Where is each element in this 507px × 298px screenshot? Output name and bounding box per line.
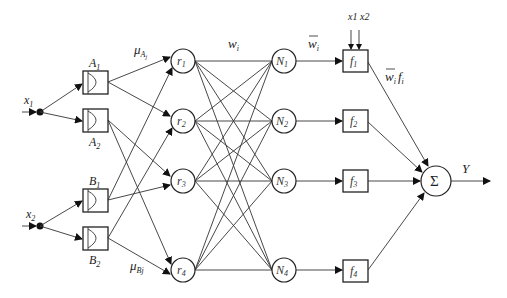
f1-inputs: x1 x2	[347, 11, 369, 49]
input-x2: x2	[22, 201, 82, 239]
rule-node-r4: r4	[171, 258, 195, 282]
input-x1: x1	[22, 84, 82, 121]
norm-f-edges	[296, 61, 342, 270]
f-box-f3: f3	[343, 170, 368, 192]
mf-rule-edges	[108, 57, 172, 274]
rule-norm-edges	[195, 61, 272, 270]
svg-text:B2: B2	[89, 253, 100, 269]
svg-text:x2: x2	[25, 207, 35, 223]
wbar-label: wi	[308, 36, 319, 53]
norm-node-N3: N3	[272, 169, 296, 193]
sum-node: Σ	[421, 166, 451, 196]
wbar-f-label: wifi	[385, 69, 404, 86]
anfis-diagram: x1 x2 A1 A2 B1 B2	[0, 0, 507, 298]
svg-text:Σ: Σ	[430, 173, 439, 189]
rule-node-r2: r2	[171, 109, 195, 133]
svg-text:x1 x2: x1 x2	[347, 11, 369, 22]
mf-box-A1: A1	[83, 56, 108, 94]
mf-box-B2: B2	[83, 227, 108, 269]
rule-node-r3: r3	[171, 169, 195, 193]
w-label: wi	[228, 36, 239, 53]
mu-B-label: μBj	[129, 258, 144, 275]
mu-A-label: μAj	[133, 42, 147, 60]
rule-node-r1: r1	[171, 49, 195, 73]
svg-text:wi: wi	[308, 36, 319, 53]
svg-text:A2: A2	[88, 135, 100, 151]
norm-node-N1: N1	[272, 49, 296, 73]
mf-box-B1: B1	[83, 174, 108, 212]
f-box-f4: f4	[343, 260, 368, 282]
f-sum-edges	[368, 62, 428, 270]
mf-box-A2: A2	[83, 109, 108, 151]
output-y: Y	[451, 161, 490, 181]
f-box-f2: f2	[343, 110, 368, 132]
svg-text:wifi: wifi	[385, 69, 404, 86]
norm-node-N4: N4	[272, 258, 296, 282]
f-box-f1: f1	[343, 50, 368, 72]
svg-text:Y: Y	[462, 161, 471, 176]
svg-text:x1: x1	[23, 93, 33, 109]
svg-text:A1: A1	[88, 56, 100, 72]
norm-node-N2: N2	[272, 109, 296, 133]
svg-text:B1: B1	[89, 174, 100, 190]
